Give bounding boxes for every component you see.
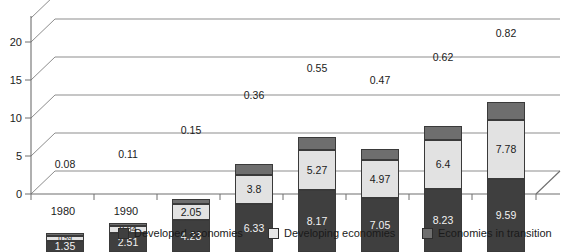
y-tick-label-0: 0 <box>0 189 22 200</box>
bar-group-2011: 9.59 7.78 <box>487 58 525 252</box>
bar-value-developing-2007: 5.27 <box>307 165 327 176</box>
bar-segment-transition-2009 <box>361 149 399 160</box>
stacked-bar-chart: 0 5 10 15 20 1980 1990 2000 2005 2007 20… <box>0 0 571 252</box>
bar-group-2005: 6.33 3.8 <box>235 58 273 252</box>
y-tick-label-10: 10 <box>0 113 22 124</box>
bar-value-developed-2007: 8.17 <box>307 216 327 227</box>
y-tick-label-5: 5 <box>0 151 22 162</box>
legend-swatch-icon-developing <box>268 228 279 239</box>
bar-segment-developing-2010: 6.4 <box>424 140 462 189</box>
bar-group-1980: 1.35 0.59 <box>46 58 84 252</box>
legend-item-developed-economies: Developed economies <box>118 228 243 239</box>
bar-top-value-1990: 0.11 <box>109 149 147 160</box>
bar-segment-transition-2011 <box>487 102 525 120</box>
bar-top-value-1980: 0.08 <box>46 159 84 170</box>
bar-group-2010: 8.23 6.4 <box>424 58 462 252</box>
bar-top-value-2007: 0.55 <box>298 63 336 74</box>
y-tick-marks <box>25 42 31 194</box>
legend-swatch-icon-developed <box>118 228 129 239</box>
bar-value-developing-2005: 3.8 <box>247 184 262 195</box>
y-tick-label-20: 20 <box>0 37 22 48</box>
bar-segment-transition-2000 <box>172 199 210 204</box>
bar-group-2009: 7.05 4.97 <box>361 58 399 252</box>
legend-label-developed: Developed economies <box>134 228 243 239</box>
bar-top-value-2005: 0.36 <box>235 90 273 101</box>
bar-segment-developing-2005: 3.8 <box>235 175 273 204</box>
bar-segment-developing-2000: 2.05 <box>172 204 210 220</box>
bar-segment-developing-2011: 7.78 <box>487 120 525 179</box>
bar-top-value-2000: 0.15 <box>172 125 210 136</box>
chart-legend: Developed economies Developing economies… <box>0 228 571 244</box>
bar-segment-transition-2007 <box>298 137 336 150</box>
y-tick-label-15: 15 <box>0 75 22 86</box>
bar-value-developing-2000: 2.05 <box>181 207 201 218</box>
bar-top-value-2011: 0.82 <box>487 28 525 39</box>
bar-top-value-2010: 0.62 <box>424 52 462 63</box>
bar-value-developed-2011: 9.59 <box>496 210 516 221</box>
bar-segment-transition-1990 <box>109 223 147 226</box>
bar-value-developing-2010: 6.4 <box>436 159 451 170</box>
bar-segment-transition-2010 <box>424 126 462 140</box>
bar-top-value-2009: 0.47 <box>361 75 399 86</box>
bar-value-developing-2009: 4.97 <box>370 174 390 185</box>
legend-item-economies-in-transition: Economies in transition <box>422 228 552 239</box>
bar-group-2007: 8.17 5.27 <box>298 58 336 252</box>
legend-swatch-icon-transition <box>422 228 433 239</box>
bar-segment-transition-2005 <box>235 164 273 175</box>
bar-value-developing-2011: 7.78 <box>496 144 516 155</box>
bar-group-2000: 4.23 2.05 <box>172 58 210 252</box>
bar-segment-developing-2007: 5.27 <box>298 150 336 190</box>
legend-item-developing-economies: Developing economies <box>268 228 395 239</box>
legend-label-transition: Economies in transition <box>438 228 552 239</box>
legend-label-developing: Developing economies <box>284 228 395 239</box>
chart-plot-area <box>0 0 571 222</box>
bar-segment-developing-2009: 4.97 <box>361 160 399 198</box>
bar-value-developed-2010: 8.23 <box>433 215 453 226</box>
